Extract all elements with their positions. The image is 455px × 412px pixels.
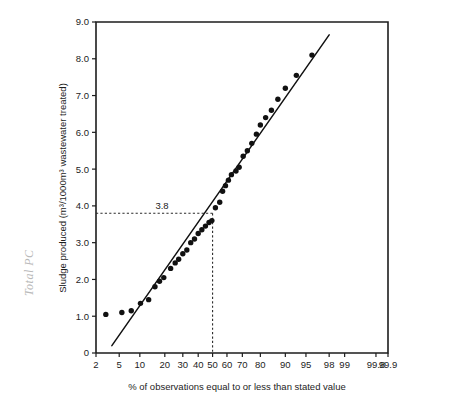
data-point xyxy=(263,115,268,120)
x-axis-title: % of observations equal to or less than … xyxy=(128,381,346,392)
x-tick-label: 40 xyxy=(193,359,204,370)
data-point xyxy=(184,247,189,252)
y-tick-label: 0 xyxy=(84,347,89,358)
data-point xyxy=(229,172,234,177)
data-point xyxy=(146,297,151,302)
y-tick-label: 2.0 xyxy=(76,274,89,285)
y-axis-ticks: 01.02.03.04.05.06.07.08.09.0 xyxy=(76,16,96,358)
data-point xyxy=(168,266,173,271)
data-point xyxy=(258,122,263,127)
data-point xyxy=(245,148,250,153)
x-tick-label: 90 xyxy=(280,359,291,370)
x-tick-label: 20 xyxy=(160,359,171,370)
x-tick-label: 98 xyxy=(324,359,335,370)
x-tick-label: 99.9 xyxy=(379,359,398,370)
y-tick-label: 5.0 xyxy=(76,164,89,175)
data-point xyxy=(209,218,214,223)
data-point xyxy=(129,308,134,313)
data-point xyxy=(269,108,274,113)
x-tick-label: 5 xyxy=(117,359,122,370)
y-tick-label: 4.0 xyxy=(76,200,89,211)
annotations: 3.8 xyxy=(155,200,168,211)
y-tick-label: 9.0 xyxy=(76,16,89,27)
data-point xyxy=(226,177,231,182)
y-tick-label: 7.0 xyxy=(76,90,89,101)
y-tick-label: 1.0 xyxy=(76,311,89,322)
data-point xyxy=(192,236,197,241)
x-axis-ticks: 2510203040506070809095989999.899.9 xyxy=(93,353,397,370)
x-tick-label: 30 xyxy=(178,359,189,370)
data-point xyxy=(138,301,143,306)
data-points xyxy=(103,52,315,317)
data-point xyxy=(103,312,108,317)
y-axis-title: Sludge produced (m³/1000m³ wastewater tr… xyxy=(57,83,68,293)
y-tick-label: 3.0 xyxy=(76,237,89,248)
x-tick-label: 10 xyxy=(135,359,146,370)
reference-value-label: 3.8 xyxy=(155,200,168,211)
data-point xyxy=(152,284,157,289)
data-point xyxy=(119,310,124,315)
y-tick-label: 8.0 xyxy=(76,53,89,64)
x-tick-label: 80 xyxy=(255,359,266,370)
data-point xyxy=(294,73,299,78)
x-tick-label: 60 xyxy=(222,359,233,370)
data-point xyxy=(180,251,185,256)
x-tick-label: 70 xyxy=(237,359,248,370)
data-point xyxy=(217,200,222,205)
data-point xyxy=(176,257,181,262)
data-point xyxy=(223,183,228,188)
data-point xyxy=(254,131,259,136)
data-point xyxy=(157,279,162,284)
data-point xyxy=(220,188,225,193)
x-tick-label: 95 xyxy=(301,359,312,370)
x-tick-label: 50 xyxy=(207,359,218,370)
data-point xyxy=(283,86,288,91)
data-point xyxy=(275,97,280,102)
data-point xyxy=(249,141,254,146)
data-point xyxy=(236,165,241,170)
data-point xyxy=(309,52,314,57)
data-point xyxy=(161,275,166,280)
chart-canvas: 01.02.03.04.05.06.07.08.09.0 25102030405… xyxy=(0,0,455,412)
probability-plot-figure: Total PC 01.02.03.04.05.06.07.08.09.0 25… xyxy=(0,0,455,412)
reference-lines xyxy=(96,213,213,353)
x-tick-label: 2 xyxy=(93,359,98,370)
data-point xyxy=(213,205,218,210)
data-point xyxy=(240,154,245,159)
x-tick-label: 99 xyxy=(339,359,350,370)
y-tick-label: 6.0 xyxy=(76,127,89,138)
